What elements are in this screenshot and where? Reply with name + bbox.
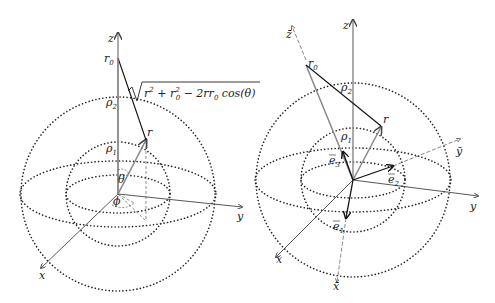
- theta-label: θ: [118, 173, 125, 186]
- diagram-canvas: z y x r0 r ρ2 ρ1 θ ϕ r2 + r20 − 2rr0 cos…: [0, 0, 495, 303]
- svg-text:e2: e2: [388, 173, 400, 188]
- svg-text:e1: e1: [333, 220, 344, 235]
- y-axis: [353, 180, 478, 196]
- y-bar-label: ȳ: [455, 145, 463, 158]
- e3-vector: [343, 152, 353, 180]
- svg-text:e3: e3: [329, 154, 341, 169]
- z-bar-label: z̄: [285, 28, 292, 41]
- y-axis-label: y: [469, 200, 477, 213]
- distance-line: [306, 65, 381, 126]
- rho1-label: ρ1: [105, 142, 117, 157]
- z-bar-axis: [292, 26, 306, 60]
- z-axis-label: z: [107, 32, 114, 45]
- x-axis: [41, 194, 118, 268]
- e1-label: e1: [333, 220, 344, 235]
- e2-label: e2: [388, 173, 400, 188]
- e3-label: e3: [329, 154, 341, 169]
- r-label: r: [383, 113, 389, 126]
- distance-formula: r2 + r20 − 2rr0 cos(θ): [128, 82, 260, 102]
- distance-line: [118, 58, 146, 140]
- phi-label: ϕ: [113, 195, 121, 208]
- x-bar-label: x̄: [333, 280, 340, 293]
- x-axis-label: x: [39, 269, 46, 282]
- y-bar-axis: [393, 139, 460, 166]
- right-panel: z y x z̄ ȳ x̄ r0 r ρ2 ρ1 e3 e2 e1: [255, 19, 478, 293]
- left-panel: z y x r0 r ρ2 ρ1 θ ϕ r2 + r20 − 2rr0 cos…: [20, 32, 260, 291]
- r0-label: r0: [308, 57, 318, 72]
- rho2-label: ρ2: [105, 96, 117, 111]
- y-axis-label: y: [236, 210, 244, 223]
- x-axis-label: x: [276, 253, 283, 266]
- r0-label: r0: [104, 52, 114, 67]
- r-label: r: [147, 126, 153, 139]
- z-axis-label: z: [342, 19, 349, 32]
- x-axis: [276, 180, 353, 257]
- y-axis: [118, 194, 242, 207]
- rho2-label: ρ2: [340, 81, 352, 96]
- svg-text:r2 + r20 − 2rr0 cos(θ): r2 + r20 − 2rr0 cos(θ): [144, 86, 255, 102]
- rho1-label: ρ1: [340, 130, 352, 145]
